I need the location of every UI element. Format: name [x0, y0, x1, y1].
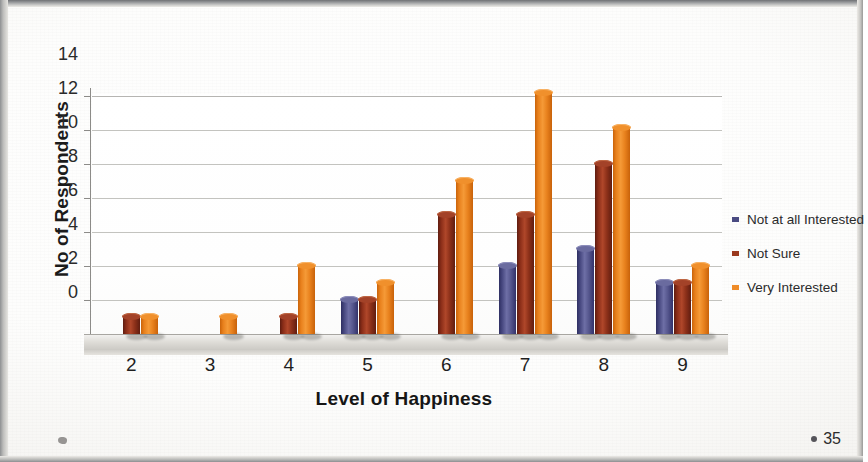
bar-shadow	[616, 333, 637, 340]
bar	[674, 283, 691, 334]
x-axis-title: Level of Happiness	[84, 388, 724, 410]
bar	[656, 283, 673, 334]
x-axis-tick-label: 9	[653, 354, 713, 376]
bar-shadow	[301, 333, 322, 340]
page-number: 35	[811, 430, 841, 448]
bar-body	[535, 93, 552, 334]
bar-top-ellipse	[655, 279, 674, 286]
bar-body	[499, 266, 516, 334]
legend-swatch-icon	[732, 251, 739, 256]
bar	[220, 317, 237, 334]
bar-top-ellipse	[358, 296, 377, 303]
y-axis-tick-label: 6	[38, 180, 78, 201]
x-axis-tick-label: 4	[259, 354, 319, 376]
bar-top-ellipse	[455, 177, 474, 184]
bar-group	[262, 88, 315, 340]
bar-body	[613, 128, 630, 334]
bar-group	[656, 88, 709, 340]
bar-shadow	[223, 333, 244, 340]
legend-label: Not Sure	[747, 246, 800, 261]
bar-top-ellipse	[673, 279, 692, 286]
bar-body	[674, 283, 691, 334]
bar-shadow	[459, 333, 480, 340]
page-number-dot-icon	[811, 436, 817, 442]
bar-shadow	[695, 333, 716, 340]
bars-layer	[92, 88, 722, 340]
bar-top-ellipse	[498, 262, 517, 269]
bar	[595, 164, 612, 334]
bar-body	[341, 300, 358, 334]
page-edge-bottom	[0, 456, 863, 462]
bar-top-ellipse	[122, 313, 141, 320]
legend-item: Not Sure	[732, 236, 868, 270]
x-axis-tick-label: 5	[338, 354, 398, 376]
page-edge-top	[0, 0, 863, 7]
y-axis-line	[90, 88, 91, 340]
y-axis-tick	[84, 232, 91, 233]
bar-group	[184, 88, 237, 340]
x-axis-tick-labels: 23456789	[84, 354, 730, 380]
y-axis-tick	[84, 266, 91, 267]
y-axis-tick-label: 10	[38, 112, 78, 133]
bar	[377, 283, 394, 334]
bar	[438, 215, 455, 334]
bar-body	[359, 300, 376, 334]
legend-label: Not at all Interested	[747, 212, 864, 227]
bar-body	[438, 215, 455, 334]
bar	[535, 93, 552, 334]
bar-top-ellipse	[516, 211, 535, 218]
legend-swatch-icon	[732, 285, 739, 290]
bar-body	[298, 266, 315, 334]
bar-body	[692, 266, 709, 334]
bar	[141, 317, 158, 334]
bar	[359, 300, 376, 334]
plot-area	[84, 88, 722, 346]
bar	[280, 317, 297, 334]
legend-item: Very Interested	[732, 270, 868, 304]
y-axis-tick	[84, 300, 91, 301]
y-axis-tick	[84, 96, 91, 97]
bar-shadow	[538, 333, 559, 340]
y-axis-tick	[84, 130, 91, 131]
bar-body	[595, 164, 612, 334]
bar-top-ellipse	[691, 262, 710, 269]
bar	[123, 317, 140, 334]
bar-group	[341, 88, 394, 340]
bar	[499, 266, 516, 334]
bar-top-ellipse	[437, 211, 456, 218]
y-axis-tick	[84, 164, 91, 165]
bar-group	[105, 88, 158, 340]
page-edge-left	[0, 0, 8, 462]
bar	[577, 249, 594, 334]
y-axis-tick-label: 12	[38, 78, 78, 99]
y-axis-tick	[84, 198, 91, 199]
y-axis-tick-label: 2	[38, 248, 78, 269]
bar-body	[456, 181, 473, 334]
bar	[517, 215, 534, 334]
bar	[341, 300, 358, 334]
legend-swatch-icon	[732, 217, 739, 222]
chart-legend: Not at all InterestedNot SureVery Intere…	[732, 202, 868, 304]
diamond-mark-icon	[58, 436, 68, 444]
x-axis-tick-label: 8	[574, 354, 634, 376]
bar-top-ellipse	[140, 313, 159, 320]
page-number-label: 35	[823, 430, 841, 448]
bar-top-ellipse	[219, 313, 238, 320]
bar-group	[420, 88, 473, 340]
y-axis-tick-label: 8	[38, 146, 78, 167]
bar	[456, 181, 473, 334]
legend-item: Not at all Interested	[732, 202, 868, 236]
bar-top-ellipse	[340, 296, 359, 303]
bar-body	[517, 215, 534, 334]
bar-group	[499, 88, 552, 340]
legend-label: Very Interested	[747, 280, 838, 295]
bar	[298, 266, 315, 334]
y-axis-tick-label: 4	[38, 214, 78, 235]
y-axis-tick-labels: 02468101214	[38, 92, 78, 342]
x-axis-tick-label: 2	[101, 354, 161, 376]
y-axis-tick-label: 0	[38, 282, 78, 303]
bar-group	[577, 88, 630, 340]
bar-chart-figure: No of Respondents 02468101214 23456789 L…	[14, 36, 849, 412]
bar	[692, 266, 709, 334]
